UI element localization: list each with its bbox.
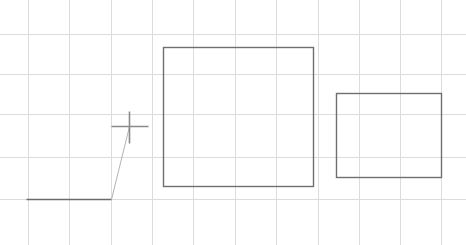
drawing-canvas-app[interactable] — [0, 0, 466, 245]
drawing-canvas[interactable] — [0, 0, 466, 245]
